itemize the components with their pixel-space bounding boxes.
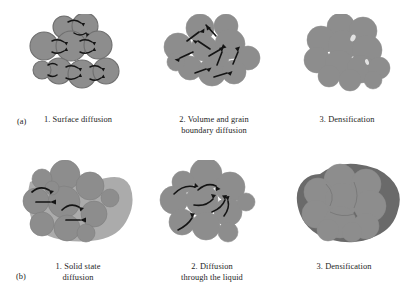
caption-a3: 3. Densification [319, 115, 374, 124]
caption-b2: 2. Diffusion through the liquid [181, 262, 243, 282]
caption-a1: 1. Surface diffusion [44, 115, 112, 124]
row-label-a: (a) [17, 117, 26, 126]
panel-b3-densification [290, 160, 402, 246]
row-label-b: (b) [16, 272, 26, 281]
caption-a2: 2. Volume and grain boundary diffusion [179, 115, 249, 135]
caption-b1: 1. Solid state diffusion [56, 262, 101, 282]
panel-b1-solid-state-diffusion [22, 160, 134, 244]
caption-b3: 3. Densification [316, 262, 371, 271]
panel-b2-diffusion-through-liquid [158, 160, 266, 244]
panel-a3-densification [295, 14, 395, 96]
sintering-figure: 1. Surface diffusion 2. Volume and grain… [0, 0, 415, 293]
panel-a2-volume-grain-boundary-diffusion [160, 14, 264, 96]
panel-a1-surface-diffusion [22, 14, 134, 96]
